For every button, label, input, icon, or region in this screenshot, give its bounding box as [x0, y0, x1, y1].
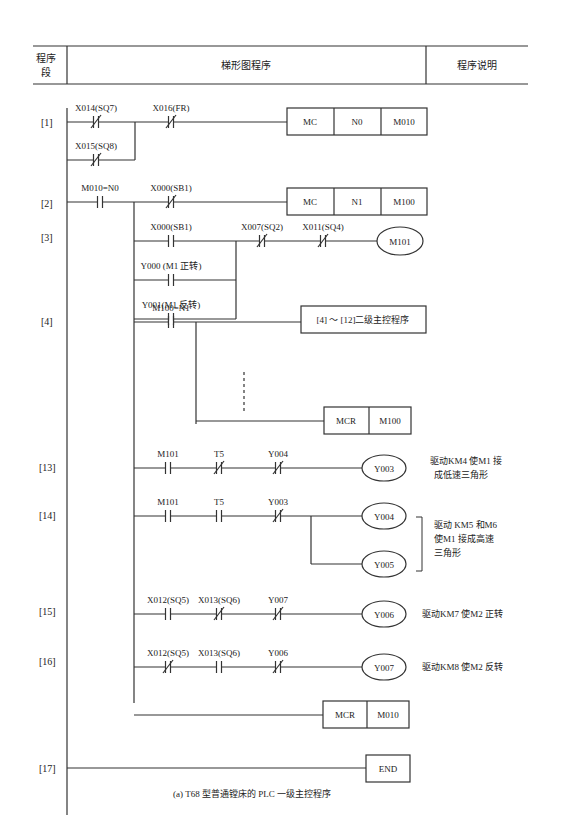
contact-label: Y007: [268, 595, 288, 605]
rung-16: X012(SQ5) X013(SQ6) Y006 Y007 驱动KM8 使M2 …: [134, 648, 503, 728]
contact-y007-nc: Y007: [268, 595, 288, 620]
contact-m100-no: M100=N1: [152, 303, 190, 328]
contact-label: X000(SB1): [150, 183, 192, 193]
step-17: [17]: [39, 763, 56, 774]
coil-y007-label: Y007: [374, 663, 394, 673]
subprogram-box: [4] ～ [12]二级主控程序: [301, 306, 426, 333]
step-14: [14]: [39, 510, 56, 521]
contact-y006-nc: Y006: [268, 648, 288, 673]
rung-1: X014(SQ7) X015(SQ8) X016(FR) MC N0 M010: [67, 103, 427, 166]
contact-x007-nc: X007(SQ2): [241, 222, 283, 247]
end-label: END: [379, 764, 398, 774]
ladder-diagram-figure: 程序 段 梯形图程序 程序说明 [1] [2] [3] [4] [13] [14…: [0, 0, 569, 837]
contact-m101-no: M101: [157, 449, 179, 474]
contact-label: X013(SQ6): [198, 648, 240, 658]
coil-y004-label: Y004: [374, 512, 394, 522]
contact-x013-nc: X013(SQ6): [198, 595, 240, 620]
contact-x016-nc: X016(FR): [152, 103, 189, 128]
figure-caption: (a) T68 型普通镗床的 PLC 一级主控程序: [173, 788, 331, 799]
mc1-relay: M010: [393, 117, 415, 127]
contact-x000-no: X000(SB1): [150, 222, 192, 247]
contact-label: X012(SQ5): [147, 648, 189, 658]
coil-m101-label: M101: [389, 237, 411, 247]
contact-x012-nc: X012(SQ5): [147, 648, 189, 673]
step-numbers: [1] [2] [3] [4] [13] [14] [15] [16] [17]: [39, 117, 56, 774]
rung-17: END: [67, 755, 410, 782]
contact-y003-nc: Y003: [268, 497, 288, 522]
mcr-box-m100: MCR M100: [324, 407, 411, 434]
coil-y003-label: Y003: [374, 464, 394, 474]
mcr1-relay: M100: [379, 416, 401, 426]
rung-4: M100=N1 [4] ～ [12]二级主控程序 MCR M100: [134, 303, 426, 434]
mc-instruction-box-1: MC N0 M010: [287, 108, 427, 135]
header-col-ladder: 梯形图程序: [221, 59, 271, 71]
header-col-step-line2: 段: [41, 66, 51, 78]
contact-x000-nc: X000(SB1): [150, 183, 192, 208]
mcr-box-m010: MCR M010: [323, 701, 409, 728]
contact-label: T5: [214, 449, 224, 459]
step-13: [13]: [39, 462, 56, 473]
bracket-14: [416, 517, 422, 571]
rung-2: M010=N0 X000(SB1) MC N1 M100: [67, 183, 427, 215]
coil-y006: Y006: [362, 601, 406, 627]
contact-label: Y004: [268, 449, 288, 459]
mc2-nest: N1: [352, 197, 363, 207]
contact-y000-no: Y000 (M1 正转): [141, 260, 202, 286]
contact-t5-nc: T5: [214, 449, 224, 474]
mc1-op: MC: [303, 117, 317, 127]
rung-14: M101 T5 Y003 Y004 Y005 驱动 KM5 和M6 使M1 接成…: [134, 497, 498, 577]
contact-x013-no: X013(SQ6): [198, 648, 240, 673]
mcr2-relay: M010: [377, 710, 399, 720]
contact-x011-nc: X011(SQ4): [302, 222, 344, 247]
end-box: END: [366, 755, 410, 782]
contact-label: X015(SQ8): [75, 141, 117, 151]
rung-13: M101 T5 Y004 Y003 驱动KM4 使M1 接 成低速三角形: [134, 449, 502, 481]
contact-label: M101: [157, 449, 179, 459]
contact-t5-no: T5: [214, 497, 224, 522]
mc2-op: MC: [303, 197, 317, 207]
contact-m101-no-2: M101: [157, 497, 179, 522]
contact-x014-nc: X014(SQ7): [75, 103, 117, 128]
note-14-line1: 驱动 KM5 和M6: [434, 520, 498, 530]
header-table: 程序 段 梯形图程序 程序说明: [33, 46, 528, 84]
contact-y004-nc: Y004: [268, 449, 288, 474]
coil-y005-label: Y005: [374, 560, 394, 570]
mc2-relay: M100: [393, 197, 415, 207]
note-13-line2: 成低速三角形: [434, 469, 488, 480]
contact-label: T5: [214, 497, 224, 507]
contact-m010-no: M010=N0: [81, 183, 119, 208]
header-col-description: 程序说明: [457, 59, 497, 71]
step-1: [1]: [41, 117, 53, 128]
coil-y003: Y003: [362, 455, 406, 481]
contact-label: X007(SQ2): [241, 222, 283, 232]
rung-15: X012(SQ5) X013(SQ6) Y007 Y006 驱动KM7 使M2 …: [134, 595, 503, 627]
mcr2-op: MCR: [335, 710, 355, 720]
coil-y005: Y005: [362, 551, 406, 577]
header-col-step-line1: 程序: [36, 52, 56, 64]
step-16: [16]: [39, 656, 56, 667]
contact-label: M100=N1: [152, 303, 190, 313]
step-3: [3]: [41, 232, 53, 243]
contact-label: X000(SB1): [150, 222, 192, 232]
mcr1-op: MCR: [336, 416, 356, 426]
note-13-line1: 驱动KM4 使M1 接: [430, 455, 502, 466]
contact-label: Y006: [268, 648, 288, 658]
subprogram-label: [4] ～ [12]二级主控程序: [317, 314, 410, 325]
coil-y006-label: Y006: [374, 610, 394, 620]
mc1-nest: N0: [352, 117, 363, 127]
step-2: [2]: [41, 198, 53, 209]
mc-instruction-box-2: MC N1 M100: [287, 188, 427, 215]
contact-label: M101: [157, 497, 179, 507]
coil-y007: Y007: [362, 654, 406, 680]
note-16: 驱动KM8 使M2 反转: [422, 661, 503, 672]
contact-label: Y000 (M1 正转): [141, 260, 202, 271]
contact-x012-no: X012(SQ5): [147, 595, 189, 620]
note-14-line2: 使M1 接成高速: [434, 533, 494, 544]
coil-m101: M101: [377, 227, 423, 255]
step-15: [15]: [39, 606, 56, 617]
step-4: [4]: [41, 316, 53, 327]
contact-label: X012(SQ5): [147, 595, 189, 605]
contact-label: X016(FR): [152, 103, 189, 113]
contact-label: X014(SQ7): [75, 103, 117, 113]
contact-label: M010=N0: [81, 183, 119, 193]
